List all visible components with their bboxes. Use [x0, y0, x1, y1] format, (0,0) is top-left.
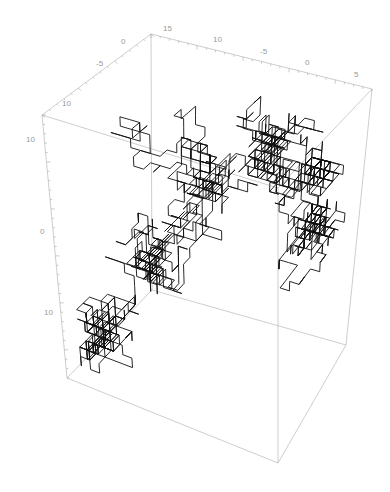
edge-bottom-front [67, 378, 278, 463]
x-axis-tick [57, 104, 59, 106]
x-axis-tick [49, 110, 51, 112]
y-tick-label: 10 [213, 35, 222, 44]
random-walk-3d-plot: 10 -5 0 15 10 -5 0 5 10 0 10 [0, 0, 390, 492]
y-tick-label: 5 [354, 70, 359, 79]
x-axis-tick [122, 56, 124, 58]
edge-bottom-back [152, 290, 346, 345]
tick-labels: 10 -5 0 15 10 -5 0 5 10 0 10 [26, 24, 359, 317]
edge-top-left [42, 34, 151, 115]
edge-bottom-left [67, 290, 152, 378]
axis-ticks [42, 34, 372, 378]
z-tick-label: 10 [44, 308, 53, 317]
edge-top-right [278, 89, 372, 188]
edge-vertical-right [346, 89, 372, 345]
x-axis-tick [107, 66, 109, 68]
x-axis-tick [93, 77, 95, 79]
x-axis-tick [86, 83, 88, 85]
x-axis-tick [144, 39, 146, 41]
edge-top-front [42, 115, 278, 188]
x-axis-tick [71, 93, 73, 95]
x-axis-tick [78, 88, 81, 91]
edge-bottom-right [278, 345, 346, 463]
x-axis-tick [129, 50, 131, 52]
x-axis-tick [100, 72, 102, 74]
x-tick-label: 0 [121, 37, 126, 46]
z-tick-label: 0 [40, 227, 45, 236]
y-tick-label: 15 [163, 24, 172, 33]
x-axis-tick [115, 61, 118, 64]
z-tick-label: 10 [26, 135, 35, 144]
x-tick-label: -5 [96, 59, 104, 68]
y-tick-label: 0 [305, 58, 310, 67]
y-tick-label: -5 [260, 47, 268, 56]
x-axis-tick [136, 45, 138, 47]
x-tick-label: 10 [62, 99, 71, 108]
